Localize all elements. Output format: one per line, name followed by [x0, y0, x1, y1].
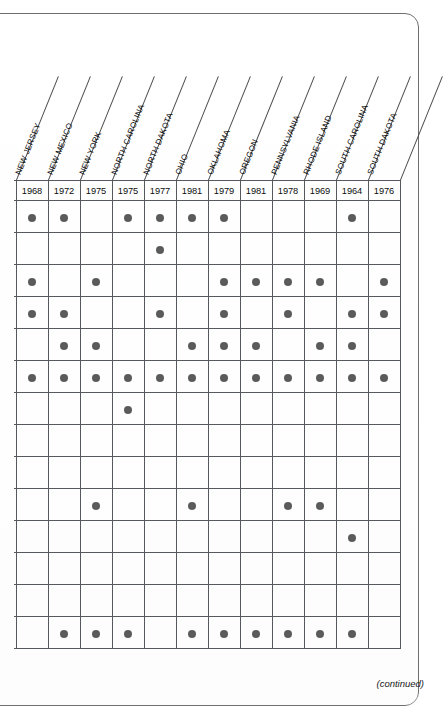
matrix-cell-marked: [112, 201, 144, 233]
matrix-cell-empty: [208, 457, 240, 489]
matrix-cell-empty: [16, 521, 48, 553]
matrix-cell-empty: [144, 489, 176, 521]
column-header-rhode-island: RHODE ISLAND: [304, 85, 336, 180]
matrix-cell-empty: [144, 585, 176, 617]
matrix-cell-marked: [240, 617, 272, 649]
filled-dot-icon: [188, 374, 196, 382]
column-header-north-carolina: NORTH CAROLINA: [112, 85, 144, 180]
matrix-cell-empty: [112, 489, 144, 521]
matrix-cell-empty: [48, 585, 80, 617]
matrix-cell-empty: [336, 265, 368, 297]
matrix-cell-empty: [208, 553, 240, 585]
matrix-cell-marked: [304, 489, 336, 521]
matrix-cell-marked: [272, 297, 304, 329]
matrix-cell-empty: [176, 553, 208, 585]
filled-dot-icon: [60, 214, 68, 222]
matrix-cell-empty: [48, 553, 80, 585]
filled-dot-icon: [252, 630, 260, 638]
matrix-cell-empty: [176, 521, 208, 553]
matrix-cell-empty: [304, 521, 336, 553]
matrix-cell-empty: [368, 393, 400, 425]
filled-dot-icon: [28, 278, 36, 286]
matrix-cell-empty: [144, 329, 176, 361]
year-cell: 1975: [112, 181, 144, 201]
matrix-cell-empty: [272, 233, 304, 265]
filled-dot-icon: [92, 630, 100, 638]
matrix-cell-marked: [16, 297, 48, 329]
matrix-cell-marked: [272, 617, 304, 649]
matrix-cell-empty: [240, 297, 272, 329]
filled-dot-icon: [316, 342, 324, 350]
filled-dot-icon: [188, 342, 196, 350]
filled-dot-icon: [380, 310, 388, 318]
matrix-cell-marked: [336, 361, 368, 393]
column-header-label: SOUTH CAROLINA: [334, 103, 370, 176]
filled-dot-icon: [252, 374, 260, 382]
filled-dot-icon: [124, 406, 132, 414]
matrix-cell-empty: [112, 585, 144, 617]
matrix-cell-empty: [80, 585, 112, 617]
matrix-cell-marked: [240, 329, 272, 361]
year-cell: 1977: [144, 181, 176, 201]
matrix-cell-marked: [208, 201, 240, 233]
matrix-cell-empty: [240, 489, 272, 521]
state-year-matrix-table: NEW JERSEYNEW MEXICONEW YORKNORTH CAROLI…: [14, 85, 400, 670]
filled-dot-icon: [284, 630, 292, 638]
matrix-cell-marked: [368, 297, 400, 329]
matrix-cell-empty: [144, 521, 176, 553]
matrix-cell-marked: [240, 361, 272, 393]
filled-dot-icon: [188, 214, 196, 222]
matrix-cell-marked: [240, 265, 272, 297]
matrix-cell-marked: [80, 617, 112, 649]
filled-dot-icon: [92, 278, 100, 286]
filled-dot-icon: [348, 630, 356, 638]
column-header-label: OREGON: [238, 138, 260, 176]
matrix-cell-empty: [176, 425, 208, 457]
matrix-cell-empty: [240, 425, 272, 457]
matrix-cell-empty: [208, 233, 240, 265]
matrix-cell-empty: [16, 425, 48, 457]
matrix-cell-marked: [48, 361, 80, 393]
matrix-cell-marked: [304, 329, 336, 361]
matrix-cell-empty: [336, 553, 368, 585]
filled-dot-icon: [252, 342, 260, 350]
matrix-cell-empty: [80, 393, 112, 425]
column-header-label: SOUTH DAKOTA: [366, 112, 399, 176]
filled-dot-icon: [92, 374, 100, 382]
matrix-cell-marked: [112, 361, 144, 393]
matrix-cell-empty: [16, 457, 48, 489]
matrix-cell-empty: [368, 329, 400, 361]
matrix-cell-empty: [240, 201, 272, 233]
matrix-cell-marked: [144, 361, 176, 393]
matrix-cell-marked: [304, 361, 336, 393]
matrix-cell-empty: [16, 617, 48, 649]
matrix-cell-empty: [112, 297, 144, 329]
filled-dot-icon: [220, 374, 228, 382]
matrix-cell-empty: [368, 585, 400, 617]
filled-dot-icon: [28, 310, 36, 318]
matrix-cell-empty: [272, 457, 304, 489]
matrix-cell-marked: [16, 201, 48, 233]
matrix-cell-marked: [336, 329, 368, 361]
matrix-cell-empty: [208, 585, 240, 617]
matrix-cell-empty: [16, 393, 48, 425]
matrix-cell-empty: [304, 553, 336, 585]
filled-dot-icon: [28, 214, 36, 222]
matrix-cell-empty: [80, 233, 112, 265]
column-header-ohio: OHIO: [176, 85, 208, 180]
filled-dot-icon: [316, 630, 324, 638]
filled-dot-icon: [316, 502, 324, 510]
matrix-cell-empty: [304, 297, 336, 329]
matrix-cell-empty: [272, 393, 304, 425]
matrix-cell-empty: [368, 617, 400, 649]
matrix-cell-marked: [368, 361, 400, 393]
matrix-cell-marked: [272, 489, 304, 521]
filled-dot-icon: [348, 310, 356, 318]
column-header-label: OHIO: [174, 153, 190, 176]
table-row: [14, 361, 400, 393]
matrix-cell-marked: [272, 361, 304, 393]
matrix-cell-empty: [208, 489, 240, 521]
column-header-oklahoma: OKLAHOMA: [208, 85, 240, 180]
matrix-cell-empty: [48, 489, 80, 521]
matrix-cell-marked: [304, 617, 336, 649]
